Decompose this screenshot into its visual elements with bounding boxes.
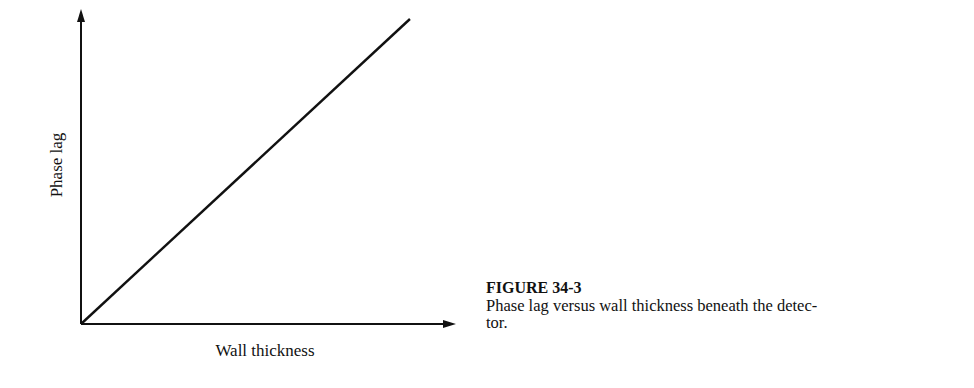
figure-caption: FIGURE 34-3 Phase lag versus wall thickn…: [486, 279, 946, 331]
figure-number: FIGURE 34-3: [486, 279, 946, 296]
x-axis-label: Wall thickness: [215, 341, 314, 361]
x-axis-arrowhead-icon: [443, 320, 456, 328]
figure: Phase lag Wall thickness FIGURE 34-3 Pha…: [0, 0, 974, 388]
series-line: [81, 19, 410, 324]
y-axis-label: Phase lag: [47, 133, 67, 198]
caption-line-2: tor.: [486, 314, 946, 331]
caption-line-1: Phase lag versus wall thickness beneath …: [486, 297, 946, 314]
y-axis-arrowhead-icon: [77, 9, 85, 22]
